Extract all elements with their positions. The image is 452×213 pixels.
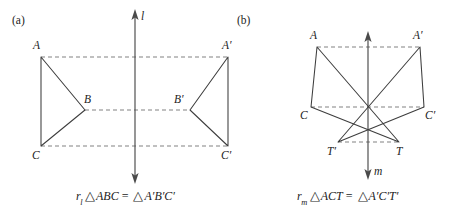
panel-label-a: (a) — [12, 15, 25, 27]
caption-b-right-triangle: A′C′T′ — [369, 189, 399, 203]
vertex-label-C-prime-b: C′ — [425, 110, 435, 122]
caption-a-triangle-symbol-left: △ — [83, 189, 96, 203]
caption-a-relation: = — [119, 189, 132, 203]
geometry-canvas — [0, 0, 452, 213]
caption-a-left-triangle: ABC — [96, 189, 119, 203]
vertex-label-T-prime-b: T′ — [327, 146, 336, 158]
caption-b-operator-subscript: m — [301, 198, 307, 207]
vertex-label-B: B — [84, 94, 91, 106]
vertex-label-C: C — [32, 150, 40, 162]
caption-a-operator-subscript: l — [80, 198, 82, 207]
caption-a-right-triangle: A′B′C′ — [144, 189, 175, 203]
reflection-figure: (a) (b) l m A B C A′ B′ C′ A C T A′ C′ T… — [0, 0, 452, 213]
caption-b: rm△ACT=△A′C′T′ — [297, 190, 398, 206]
triangle-ABC — [41, 57, 85, 146]
triangle-Aprime-Bprime-Cprime — [190, 57, 228, 146]
caption-a-triangle-symbol-right: △ — [131, 189, 144, 203]
axis-label-m: m — [374, 166, 382, 178]
axis-label-l: l — [141, 11, 144, 23]
caption-b-left-triangle: ACT — [321, 189, 343, 203]
vertex-label-A-prime-b: A′ — [413, 30, 423, 42]
vertex-label-C-prime: C′ — [221, 150, 231, 162]
vertex-label-T-b: T — [396, 146, 402, 158]
mirror-axis-l — [131, 9, 138, 184]
vertex-label-A: A — [33, 40, 40, 52]
vertex-label-A-prime: A′ — [222, 40, 232, 52]
vertex-label-C-b: C — [300, 110, 308, 122]
vertex-label-B-prime: B′ — [174, 94, 184, 106]
vertex-label-A-b: A — [310, 30, 317, 42]
triangle-ACT — [311, 47, 399, 142]
caption-b-triangle-symbol-left: △ — [308, 189, 321, 203]
triangle-Aprime-Cprime-Tprime — [338, 47, 424, 142]
caption-a: rl△ABC=△A′B′C′ — [76, 190, 175, 206]
caption-b-triangle-symbol-right: △ — [356, 189, 369, 203]
caption-b-relation: = — [343, 189, 356, 203]
panel-label-b: (b) — [237, 15, 250, 27]
